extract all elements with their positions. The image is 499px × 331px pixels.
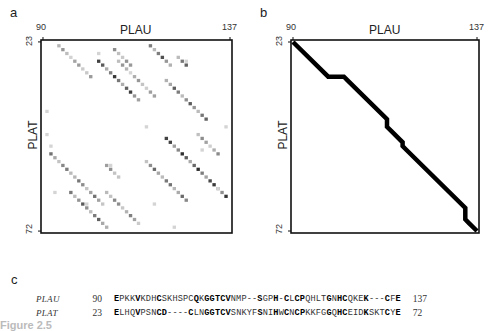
panel-b-y-tick-start: 23: [274, 36, 284, 46]
panel-b-x-title: PLAU: [369, 23, 400, 37]
alignment-path-plot: [288, 37, 488, 237]
sequence-name: PLAU: [36, 294, 74, 304]
panel-a-x-title: PLAU: [120, 23, 151, 37]
panel-b-x-tick-end: 137: [469, 22, 484, 32]
sequence-end: 72: [401, 308, 423, 318]
panel-c-label: c: [11, 272, 18, 287]
panel-b-x-tick-start: 90: [286, 22, 296, 32]
sequence-residues: ELHQVPSNCD----CLNGGTCVSNKYFSNIHWCNCPKKFG…: [114, 308, 401, 318]
alignment-path-line: [293, 42, 477, 231]
sequence-residues: EPKKVKDHCSKHSPCQKGGTCVNMP--SGPH-CLCPQHLT…: [114, 294, 401, 304]
panel-a-x-tick-start: 90: [36, 22, 46, 32]
sequence-name: PLAT: [36, 308, 74, 318]
panel-a-label: a: [10, 5, 17, 20]
sequence-end: 137: [401, 294, 427, 304]
panel-a-x-tick-end: 137: [222, 22, 237, 32]
sequence-start: 23: [74, 308, 114, 318]
figure-caption-fragment: Figure 2.5: [0, 319, 52, 331]
sequence-start: 90: [74, 294, 114, 304]
alignment-row-plat: PLAT 23 ELHQVPSNCD----CLNGGTCVSNKYFSNIHW…: [36, 306, 427, 320]
panel-a-y-tick-start: 23: [24, 36, 34, 46]
alignment-row-plau: PLAU 90 EPKKVKDHCSKHSPCQKGGTCVNMP--SGPH-…: [36, 292, 427, 306]
sequence-alignment: PLAU 90 EPKKVKDHCSKHSPCQKGGTCVNMP--SGPH-…: [36, 292, 427, 320]
dot-cells: [45, 44, 227, 229]
panel-b-y-tick-end: 72: [274, 224, 284, 234]
panel-a-y-tick-end: 72: [24, 224, 34, 234]
dot-plot-matrix: [38, 37, 238, 237]
panel-b-label: b: [260, 5, 267, 20]
